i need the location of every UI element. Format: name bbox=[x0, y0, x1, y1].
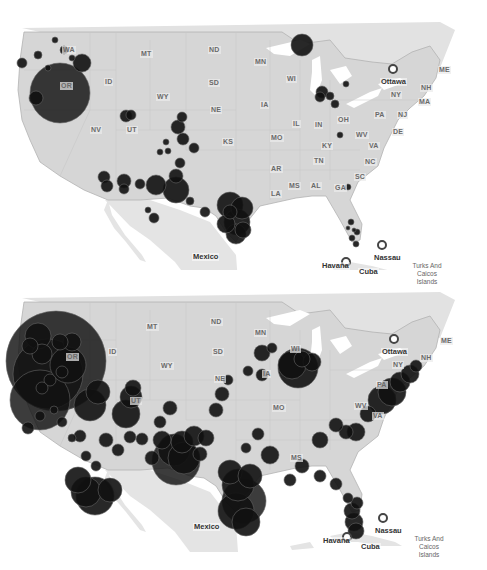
state-label-nd: ND bbox=[208, 46, 221, 54]
map-canvas bbox=[0, 290, 487, 560]
data-bubble[interactable] bbox=[73, 54, 91, 72]
data-bubble[interactable] bbox=[326, 92, 334, 100]
data-bubble[interactable] bbox=[125, 380, 141, 396]
data-bubble[interactable] bbox=[209, 403, 223, 417]
data-bubble[interactable] bbox=[81, 451, 91, 461]
data-bubble[interactable] bbox=[153, 431, 171, 449]
data-bubble[interactable] bbox=[243, 366, 253, 376]
data-bubble[interactable] bbox=[343, 493, 353, 503]
data-bubble[interactable] bbox=[145, 207, 151, 213]
state-label-me: ME bbox=[438, 66, 451, 74]
map-canvas bbox=[0, 0, 487, 270]
data-bubble[interactable] bbox=[50, 406, 58, 414]
data-bubble[interactable] bbox=[352, 228, 356, 232]
data-bubble[interactable] bbox=[157, 149, 163, 155]
data-bubble[interactable] bbox=[119, 184, 129, 194]
data-bubble[interactable] bbox=[65, 467, 91, 493]
data-bubble[interactable] bbox=[52, 37, 58, 43]
data-bubble[interactable] bbox=[163, 401, 177, 415]
data-bubble[interactable] bbox=[200, 207, 210, 217]
data-bubble[interactable] bbox=[22, 338, 38, 354]
data-bubble[interactable] bbox=[145, 451, 159, 465]
data-bubble[interactable] bbox=[353, 241, 359, 247]
data-bubble[interactable] bbox=[22, 422, 34, 434]
data-bubble[interactable] bbox=[177, 133, 189, 145]
state-label-sd: SD bbox=[212, 348, 224, 356]
data-bubble[interactable] bbox=[56, 366, 68, 378]
state-label-pa: PA bbox=[376, 381, 388, 389]
data-bubble[interactable] bbox=[329, 418, 343, 432]
place-label-cuba: Cuba bbox=[360, 543, 381, 551]
place-label-nassau: Nassau bbox=[373, 254, 402, 262]
data-bubble[interactable] bbox=[36, 382, 48, 394]
data-bubble[interactable] bbox=[112, 444, 124, 456]
data-bubble[interactable] bbox=[331, 100, 339, 108]
capital-marker-icon[interactable] bbox=[389, 334, 399, 344]
place-label-ottawa: Ottawa bbox=[381, 348, 408, 356]
data-bubble[interactable] bbox=[215, 387, 229, 401]
data-bubble[interactable] bbox=[69, 55, 75, 61]
data-bubble[interactable] bbox=[337, 132, 343, 138]
data-bubble[interactable] bbox=[34, 51, 42, 59]
data-bubble[interactable] bbox=[35, 411, 45, 421]
data-bubble[interactable] bbox=[198, 430, 214, 446]
data-bubble[interactable] bbox=[149, 213, 159, 223]
capital-marker-icon[interactable] bbox=[378, 513, 388, 523]
data-bubble[interactable] bbox=[238, 464, 262, 488]
data-bubble[interactable] bbox=[343, 81, 349, 87]
place-label-nassau: Nassau bbox=[374, 527, 403, 535]
data-bubble[interactable] bbox=[163, 139, 169, 145]
map-bottom: MTNDSDIDORWYNEUTMNWIIAMONYPAWVVANHMEMSOt… bbox=[0, 290, 487, 560]
data-bubble[interactable] bbox=[261, 446, 279, 464]
data-bubble[interactable] bbox=[177, 112, 187, 122]
data-bubble[interactable] bbox=[235, 222, 251, 238]
state-label-ut: UT bbox=[126, 126, 138, 134]
data-bubble[interactable] bbox=[154, 416, 166, 428]
data-bubble[interactable] bbox=[284, 474, 296, 486]
data-bubble[interactable] bbox=[348, 219, 354, 225]
data-bubble[interactable] bbox=[223, 205, 237, 219]
data-bubble[interactable] bbox=[146, 175, 166, 195]
data-bubble[interactable] bbox=[330, 478, 342, 490]
capital-marker-icon[interactable] bbox=[388, 64, 398, 74]
data-bubble[interactable] bbox=[45, 65, 51, 71]
data-bubble[interactable] bbox=[135, 179, 145, 189]
data-bubble[interactable] bbox=[126, 110, 136, 120]
data-bubble[interactable] bbox=[294, 351, 310, 367]
state-label-nh: NH bbox=[420, 84, 433, 92]
data-bubble[interactable] bbox=[314, 470, 326, 482]
data-bubble[interactable] bbox=[291, 34, 313, 56]
data-bubble[interactable] bbox=[98, 478, 122, 502]
data-bubble[interactable] bbox=[101, 180, 113, 192]
state-label-nc: NC bbox=[364, 158, 377, 166]
data-bubble[interactable] bbox=[241, 443, 251, 453]
data-bubble[interactable] bbox=[252, 428, 264, 440]
data-bubble[interactable] bbox=[86, 380, 110, 404]
data-bubble[interactable] bbox=[136, 433, 148, 445]
data-bubble[interactable] bbox=[57, 417, 67, 427]
data-bubble[interactable] bbox=[232, 508, 260, 536]
data-bubble[interactable] bbox=[68, 434, 76, 442]
data-bubble[interactable] bbox=[346, 226, 350, 230]
data-bubble[interactable] bbox=[315, 92, 325, 102]
data-bubble[interactable] bbox=[29, 91, 43, 105]
state-label-va: VA bbox=[372, 412, 384, 420]
data-bubble[interactable] bbox=[189, 143, 199, 153]
data-bubble[interactable] bbox=[193, 447, 207, 461]
data-bubble[interactable] bbox=[169, 169, 183, 183]
state-label-me: ME bbox=[440, 337, 453, 345]
data-bubble[interactable] bbox=[175, 158, 185, 168]
data-bubble[interactable] bbox=[17, 58, 27, 68]
capital-marker-icon[interactable] bbox=[377, 240, 387, 250]
data-bubble[interactable] bbox=[186, 197, 194, 205]
data-bubble[interactable] bbox=[124, 431, 136, 443]
data-bubble[interactable] bbox=[165, 148, 171, 154]
state-label-id: ID bbox=[104, 78, 113, 86]
state-label-wv: WV bbox=[355, 131, 369, 139]
data-bubble[interactable] bbox=[91, 461, 101, 471]
data-bubble[interactable] bbox=[99, 433, 113, 447]
data-bubble[interactable] bbox=[267, 343, 277, 353]
data-bubble[interactable] bbox=[52, 334, 68, 350]
data-bubble[interactable] bbox=[312, 432, 328, 448]
data-bubble[interactable] bbox=[349, 235, 355, 241]
